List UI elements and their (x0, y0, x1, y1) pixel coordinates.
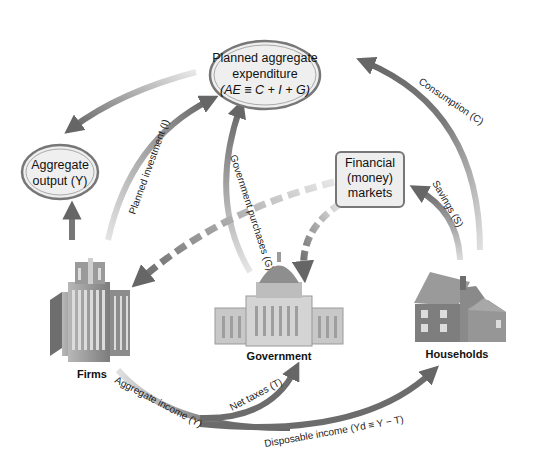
households-house-icon (414, 272, 506, 342)
firms-building-icon (50, 258, 130, 362)
ae-line3: (AE ≡ C + I + G) (220, 83, 310, 97)
fin-line1: Financial (345, 156, 395, 170)
output-line2: output (Y) (33, 174, 88, 188)
label-households: Households (426, 348, 489, 360)
label-aggregate-income: Aggregate income (Y) (113, 374, 204, 429)
circular-flow-diagram: Consumption (C) Savings (S) Planned inve… (0, 0, 541, 469)
ae-line1: Planned aggregate (212, 51, 318, 65)
fin-line2: (money) (347, 171, 393, 185)
government-capitol-icon (215, 252, 343, 346)
output-line1: Aggregate (31, 158, 89, 172)
label-government: Government (247, 350, 312, 362)
arrow-financial-to-government (304, 204, 340, 272)
label-government-purchases: Government purchases (G) (228, 153, 276, 272)
ae-line2: expenditure (232, 67, 297, 81)
fin-line3: markets (348, 186, 392, 200)
node-financial-markets: Financial (money) markets (336, 152, 404, 207)
arrow-financial-to-firms (140, 182, 334, 280)
label-firms: Firms (77, 368, 107, 380)
arrow-savings (418, 190, 460, 260)
node-aggregate-output: Aggregate output (Y) (22, 145, 98, 199)
node-planned-aggregate-expenditure: Planned aggregate expenditure (AE ≡ C + … (210, 41, 320, 109)
